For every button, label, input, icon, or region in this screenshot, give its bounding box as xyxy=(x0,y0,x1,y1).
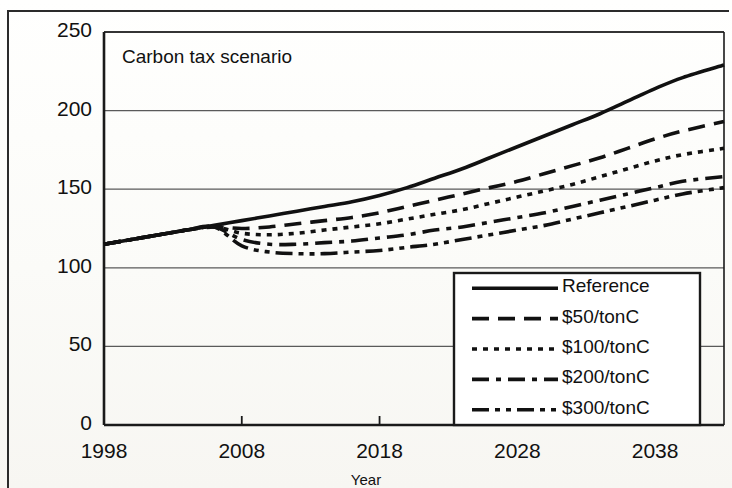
y-tick-label: 100 xyxy=(20,254,92,278)
series-line-4 xyxy=(104,188,724,254)
data-series xyxy=(104,65,724,254)
series-line-1 xyxy=(104,122,724,245)
x-tick-label: 2008 xyxy=(202,439,282,463)
figure-root: Carbon tax scenario 050100150200250 1998… xyxy=(0,0,732,488)
y-tick-label: 50 xyxy=(20,332,92,356)
y-tick-label: 250 xyxy=(20,18,92,42)
x-axis-title: Year xyxy=(0,471,732,488)
x-tick-label: 2018 xyxy=(340,439,420,463)
legend-label-2: $100/tonC xyxy=(562,336,650,358)
x-tick-label: 2038 xyxy=(615,439,695,463)
y-tick-label: 200 xyxy=(20,97,92,121)
plot-title: Carbon tax scenario xyxy=(122,46,292,68)
legend-label-1: $50/tonC xyxy=(562,306,639,328)
legend-label-4: $300/tonC xyxy=(562,397,650,419)
x-tick-label: 1998 xyxy=(64,439,144,463)
series-line-0 xyxy=(104,65,724,244)
legend-label-0: Reference xyxy=(562,275,650,297)
legend-label-3: $200/tonC xyxy=(562,366,650,388)
y-tick-label: 0 xyxy=(20,411,92,435)
y-tick-label: 150 xyxy=(20,175,92,199)
x-tick-label: 2028 xyxy=(477,439,557,463)
